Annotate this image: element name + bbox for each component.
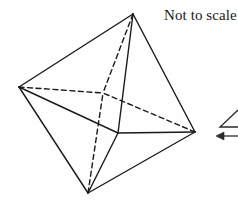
angle-mark-icon xyxy=(220,110,238,127)
not-to-scale-caption: Not to scale xyxy=(164,5,237,25)
hidden-edge-right-back xyxy=(103,93,195,132)
edge-top-right xyxy=(133,14,195,132)
hidden-edges-group xyxy=(19,14,195,193)
edge-right-bottom xyxy=(88,132,195,193)
edge-top-left xyxy=(19,14,133,87)
arrow-head-icon xyxy=(216,132,224,140)
geometry-figure: Not to scale xyxy=(0,0,238,208)
visible-edges-group xyxy=(19,14,195,193)
edge-right-front xyxy=(118,132,195,133)
octahedron-drawing xyxy=(0,0,238,208)
margin-annotation-group xyxy=(216,110,238,140)
